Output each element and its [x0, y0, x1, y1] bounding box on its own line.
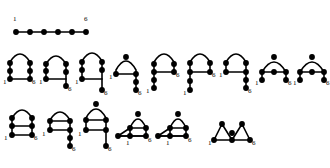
- shape-arch-short-tail-right: [114, 55, 138, 92]
- label-start-row2-shape7: 1: [219, 72, 223, 79]
- shape-triangle-loop-left: [156, 112, 188, 138]
- label-start-row3-shape1: 1: [4, 135, 8, 142]
- label-end-row2-shape3: 6: [104, 90, 108, 97]
- label-start-row3-shape3: 1: [78, 131, 82, 138]
- shape-arch-rung-tail-left: [152, 54, 176, 90]
- label-end-row2-shape2: 6: [68, 86, 72, 93]
- label-end-row3-shape1: 6: [34, 135, 38, 142]
- label-start-row2-shape3: 1: [75, 79, 79, 86]
- graph-diagram-canvas: [0, 0, 330, 168]
- shape-arch-rung-tail-down: [48, 112, 72, 148]
- shape-double-arch-zigzag: [212, 122, 252, 142]
- shape-arch-wide-plain: [298, 55, 326, 82]
- label-end-row2-shape6: 6: [212, 72, 216, 79]
- label-start-row1-shape1: 1: [13, 16, 17, 23]
- label-end-row3-shape4: 6: [148, 137, 152, 144]
- label-end-row3-shape5: 6: [188, 137, 192, 144]
- label-start-row3-shape2: 1: [42, 131, 46, 138]
- label-start-row3-shape4: 1: [126, 140, 130, 147]
- label-end-row3-shape2: 6: [72, 146, 76, 153]
- shape-triangle-loop-right: [116, 112, 148, 138]
- shape-arch-rung-tail-down-2: [84, 102, 108, 148]
- label-end-row1-shape1: 6: [84, 16, 88, 23]
- shape-arch-double-rung: [10, 110, 34, 137]
- label-start-row2-shape1: 1: [3, 79, 7, 86]
- label-end-row2-shape9: 6: [326, 80, 330, 87]
- label-start-row2-shape6: 1: [183, 90, 187, 97]
- label-end-row3-shape3: 6: [108, 146, 112, 153]
- label-end-row2-shape8: 6: [288, 80, 292, 87]
- shape-straight-path: [14, 30, 88, 34]
- label-start-row2-shape8: 1: [255, 80, 259, 87]
- label-end-row2-shape1: 6: [32, 79, 36, 86]
- label-end-row2-shape5: 6: [176, 72, 180, 79]
- graph-figure: 1 6 1 6 1 6 1 6 1 6 1 6 1 6 1 6 1 6 1 6 …: [0, 0, 330, 168]
- label-start-row2-shape9: 1: [293, 80, 297, 87]
- shape-arch-tail-right-low: [224, 54, 248, 90]
- label-end-row2-shape4: 6: [138, 90, 142, 97]
- shape-arch-wide-rung: [260, 55, 288, 82]
- label-end-row2-shape7: 6: [248, 88, 252, 95]
- label-start-row3-shape6: 1: [208, 140, 212, 147]
- label-end-row3-shape6: 6: [252, 140, 256, 147]
- label-start-row2-shape2: 1: [39, 79, 43, 86]
- shape-arch-tall-tail-right: [80, 53, 104, 92]
- label-start-row2-shape5: 1: [146, 88, 150, 95]
- shape-arch-rung-mid: [188, 54, 212, 92]
- shape-arch-ladder-rung-bottom: [8, 54, 32, 81]
- label-start-row2-shape4: 1: [109, 74, 113, 81]
- shape-arch-tail-right-down: [44, 56, 68, 88]
- label-start-row3-shape5: 1: [166, 140, 170, 147]
